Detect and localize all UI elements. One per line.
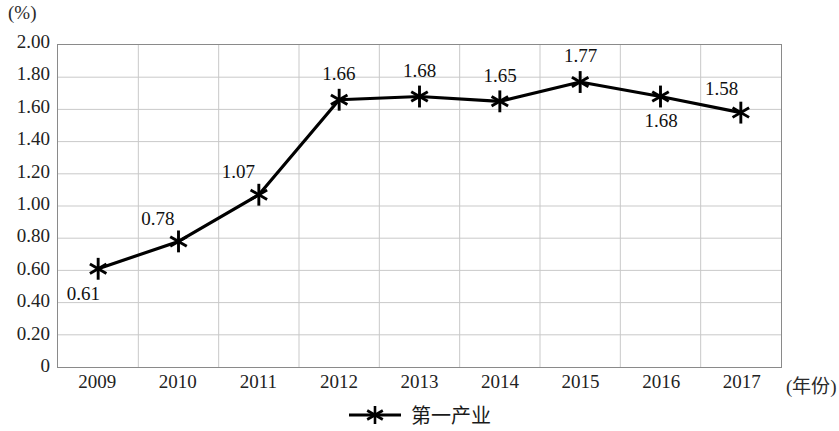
plot-area (57, 44, 782, 368)
series-primary-industry (58, 45, 781, 367)
data-point-value-label: 1.66 (307, 63, 371, 85)
x-axis-tick-label: 2010 (138, 371, 219, 393)
y-axis-tick-label: 1.80 (0, 63, 50, 85)
y-axis-tick-label: 1.60 (0, 96, 50, 118)
x-axis-tick-label: 2013 (379, 371, 460, 393)
y-axis-tick-label: 0.60 (0, 258, 50, 280)
y-axis-unit-label: (%) (8, 2, 36, 24)
y-axis-tick-label: 1.40 (0, 128, 50, 150)
data-point-value-label: 1.65 (468, 65, 532, 87)
x-axis-tick-label: 2016 (621, 371, 702, 393)
x-axis-unit-label: (年份) (786, 371, 837, 398)
x-axis-tick-label: 2009 (57, 371, 138, 393)
y-axis-tick-label: 0.40 (0, 290, 50, 312)
data-point-value-label: 1.07 (206, 161, 270, 183)
data-point-value-label: 1.77 (549, 45, 613, 67)
y-axis-tick-label: 1.00 (0, 193, 50, 215)
legend-marker-icon (349, 404, 401, 426)
line-chart: (%) (年份) 2.001.801.601.401.201.000.800.6… (0, 0, 839, 431)
data-point-value-label: 0.78 (126, 208, 190, 230)
x-axis-tick-label: 2015 (540, 371, 621, 393)
y-axis-tick-label: 0.80 (0, 225, 50, 247)
data-point-value-label: 1.58 (690, 78, 754, 100)
x-axis-tick-label: 2014 (460, 371, 541, 393)
y-axis-tick-label: 2.00 (0, 31, 50, 53)
x-axis-tick-label: 2012 (299, 371, 380, 393)
data-point-value-label: 1.68 (629, 110, 693, 132)
chart-legend: 第一产业 (0, 400, 839, 429)
y-axis-tick-label: 0.20 (0, 323, 50, 345)
data-point-value-label: 1.68 (388, 60, 452, 82)
x-axis-tick-label: 2017 (701, 371, 782, 393)
x-axis-tick-label: 2011 (218, 371, 299, 393)
legend-label-primary-industry: 第一产业 (411, 400, 491, 429)
y-axis-tick-label: 1.20 (0, 161, 50, 183)
data-point-value-label: 0.61 (51, 283, 115, 305)
y-axis-tick-label: 0 (0, 355, 50, 377)
